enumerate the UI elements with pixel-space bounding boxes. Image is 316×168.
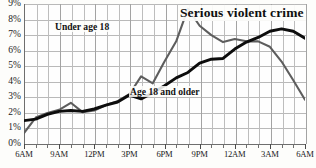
y-axis-tick-label: 5% [0,61,21,71]
y-axis-tick-label: 1% [0,123,21,133]
chart-title: Serious violent crime [178,5,306,21]
series-label-age-18-and-older: Age 18 and older [129,86,201,97]
x-axis-tick-label: 12AM [218,150,252,159]
x-axis-tick-label: 6PM [148,150,182,159]
y-axis-tick-label: 8% [0,15,21,25]
y-axis-tick-label: 0% [0,139,21,149]
y-axis-tick-label: 3% [0,92,21,102]
y-axis-tick-label: 9% [0,0,21,9]
x-axis-tick-label: 3AM [253,150,287,159]
x-axis-tick-label: 12PM [77,150,111,159]
x-axis-tick-label: 3PM [112,150,146,159]
y-axis-tick-label: 4% [0,77,21,87]
series-label-under-age-18: Under age 18 [54,21,110,32]
y-axis-tick-label: 6% [0,46,21,56]
gridline-vertical [306,4,307,144]
x-axis-tick-label: 9AM [42,150,76,159]
x-axis-tick-label: 6AM [7,150,41,159]
serious-violent-crime-chart: 0%1%2%3%4%5%6%7%8%9%6AM9AM12PM3PM6PM9PM1… [0,0,316,168]
y-axis-tick-label: 7% [0,30,21,40]
y-axis-tick-label: 2% [0,108,21,118]
x-axis-tick-label: 6AM [288,150,316,159]
x-axis-tick-label: 9PM [183,150,217,159]
